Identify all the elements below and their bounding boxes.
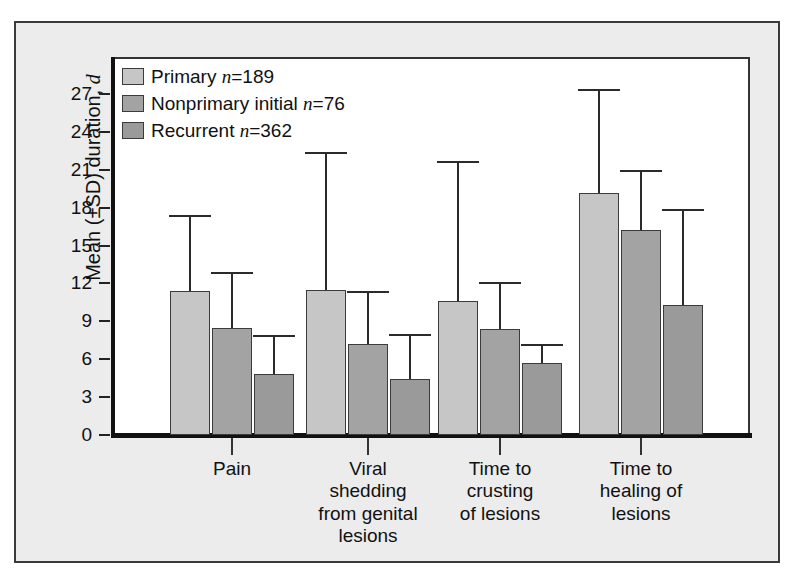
x-tick-label-line: healing of	[546, 480, 736, 502]
error-bar-stem	[499, 282, 501, 329]
bar	[306, 290, 346, 435]
error-bar-cap	[662, 209, 704, 211]
legend-swatch	[122, 68, 144, 85]
x-tick-mark	[231, 438, 233, 455]
bar	[621, 230, 661, 435]
legend-label: Nonprimary initial n=76	[151, 93, 345, 115]
legend: Primary n=189Nonprimary initial n=76Recu…	[122, 64, 345, 143]
bar	[522, 363, 562, 435]
legend-label-text: Primary	[151, 66, 222, 87]
error-bar-cap	[305, 152, 347, 154]
legend-n-symbol: n	[240, 120, 250, 141]
legend-item: Primary n=189	[122, 64, 345, 89]
error-bar-cap	[620, 170, 662, 172]
bar	[254, 374, 294, 435]
legend-n-symbol: n	[222, 66, 232, 87]
bar	[663, 305, 703, 435]
bar	[348, 344, 388, 435]
error-bar-stem	[189, 215, 191, 291]
error-bar-cap	[253, 335, 295, 337]
error-bar-stem	[682, 209, 684, 305]
error-bar-cap	[479, 282, 521, 284]
legend-n-value: =362	[249, 120, 292, 141]
legend-label-text: Recurrent	[151, 120, 240, 141]
bar	[212, 328, 252, 435]
error-bar-stem	[409, 334, 411, 379]
bar	[390, 379, 430, 435]
legend-label: Recurrent n=362	[151, 120, 292, 142]
error-bar-cap	[169, 215, 211, 217]
error-bar-stem	[367, 291, 369, 344]
error-bar-cap	[437, 161, 479, 163]
legend-label-text: Nonprimary initial	[151, 93, 303, 114]
x-tick-label: Time tohealing oflesions	[546, 458, 736, 525]
error-bar-stem	[273, 335, 275, 374]
x-tick-label-line: lesions	[546, 503, 736, 525]
bar	[480, 329, 520, 435]
error-bar-stem	[640, 170, 642, 231]
legend-n-value: =189	[231, 66, 274, 87]
x-tick-mark	[367, 438, 369, 455]
error-bar-cap	[578, 89, 620, 91]
error-bar-cap	[211, 272, 253, 274]
legend-item: Nonprimary initial n=76	[122, 91, 345, 116]
x-tick-label-line: Time to	[546, 458, 736, 480]
bar	[438, 301, 478, 435]
legend-swatch	[122, 95, 144, 112]
error-bar-stem	[541, 344, 543, 363]
error-bar-stem	[231, 272, 233, 328]
error-bar-stem	[325, 152, 327, 290]
error-bar-cap	[389, 334, 431, 336]
bar	[170, 291, 210, 435]
legend-n-symbol: n	[303, 93, 313, 114]
x-tick-mark	[640, 438, 642, 455]
error-bar-cap	[347, 291, 389, 293]
bar	[579, 193, 619, 435]
legend-label: Primary n=189	[151, 66, 274, 88]
x-tick-label-line: lesions	[273, 525, 463, 547]
legend-n-value: =76	[313, 93, 345, 114]
error-bar-cap	[521, 344, 563, 346]
legend-item: Recurrent n=362	[122, 118, 345, 143]
error-bar-stem	[598, 89, 600, 193]
x-tick-mark	[499, 438, 501, 455]
figure-container: Mean (±SD) duration, d 0369121518212427 …	[0, 0, 807, 588]
legend-swatch	[122, 122, 144, 139]
error-bar-stem	[457, 161, 459, 301]
